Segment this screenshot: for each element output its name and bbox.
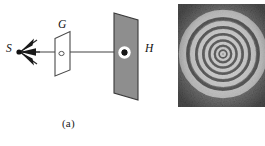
panel-b-photograph: (b): [165, 0, 265, 146]
ray-fan: [20, 39, 40, 66]
label-source-S: S: [6, 42, 12, 54]
vignette-overlay: [178, 4, 265, 107]
concentric-fringes-graphic: [178, 4, 265, 107]
figure-root: S G H (a): [0, 0, 265, 146]
source-point: [16, 49, 21, 54]
screen-hole-center-dot: [122, 50, 128, 56]
caption-panel-a: (a): [62, 117, 75, 129]
panel-a-ray-diagram: S G H (a): [0, 0, 165, 146]
ray-middle-arrowhead: [20, 48, 36, 55]
label-screen-H: H: [145, 42, 153, 54]
ray-diagram-graphic: [0, 0, 165, 146]
label-grating-G: G: [58, 18, 66, 30]
interference-photo: [178, 4, 265, 107]
grating-aperture-hole: [59, 51, 64, 55]
